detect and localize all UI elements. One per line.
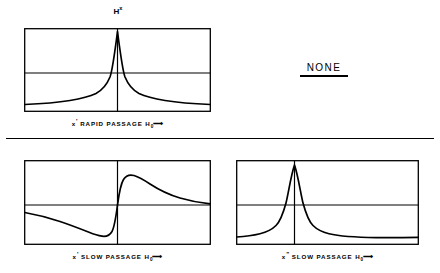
vertical-axis-title: Hx	[0, 5, 236, 16]
none-label: NONE	[300, 62, 348, 74]
none-block: NONE	[300, 62, 348, 77]
caption-slow-passage-chi-prime: x' SLOW PASSAGE H0⟶	[24, 250, 211, 262]
axis-title-superscript: x	[119, 5, 122, 11]
section-divider	[6, 138, 434, 139]
panel-slow-passage-chi-double-prime	[236, 160, 419, 245]
caption-text: RAPID PASSAGE	[78, 120, 146, 127]
nmr-lineshape-figure: Hx x' RAPID PASSAGE H0⟶ NONE x' SLOW PAS…	[0, 0, 440, 273]
none-underline-rule	[300, 75, 348, 77]
caption-arrow-icon: ⟶	[153, 120, 163, 127]
plot-slow-passage-chi-prime	[24, 160, 211, 245]
caption-arrow-icon: ⟶	[363, 253, 373, 260]
panel-rapid-passage-chi-prime	[24, 28, 211, 112]
panel-slow-passage-chi-prime	[24, 160, 211, 245]
caption-text: SLOW PASSAGE	[289, 253, 355, 260]
caption-slow-passage-chi-double-prime: x" SLOW PASSAGE H0⟶	[236, 250, 419, 262]
caption-arrow-icon: ⟶	[152, 253, 162, 260]
plot-slow-passage-chi-double-prime	[236, 160, 419, 245]
plot-rapid-passage-chi-prime	[24, 28, 211, 112]
caption-rapid-passage-chi-prime: x' RAPID PASSAGE H0⟶	[24, 117, 211, 129]
caption-text: SLOW PASSAGE	[78, 253, 144, 260]
lineshape-curve-absorption	[237, 165, 419, 238]
